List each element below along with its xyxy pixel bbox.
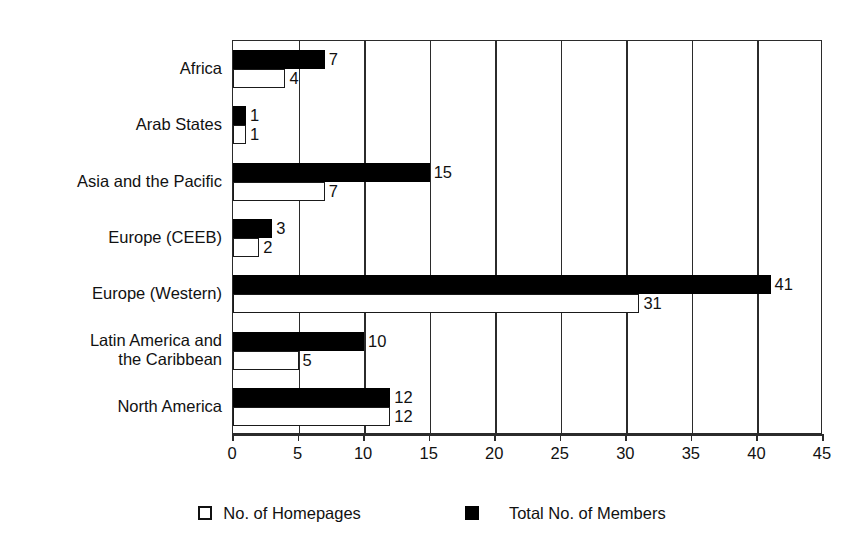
category-label: North America <box>117 396 222 415</box>
bar-value-label: 31 <box>639 294 661 313</box>
bar-value-label: 2 <box>259 238 272 257</box>
grouped-bar-chart: AfricaArab StatesAsia and the PacificEur… <box>0 0 864 560</box>
x-axis-tick <box>691 434 693 441</box>
x-axis-tick-label: 0 <box>227 444 236 463</box>
gridline <box>299 41 301 433</box>
bar-total-members <box>233 332 364 351</box>
gridline <box>364 41 366 433</box>
x-axis: 051015202530354045 <box>232 434 822 468</box>
x-axis-tick-label: 30 <box>616 444 634 463</box>
bar-homepages <box>233 238 259 257</box>
bar-value-label: 4 <box>285 69 298 88</box>
bar-total-members <box>233 219 272 238</box>
bar-value-label: 12 <box>390 388 412 407</box>
x-axis-tick-label: 5 <box>293 444 302 463</box>
bar-value-label: 3 <box>272 219 285 238</box>
bar-value-label: 7 <box>325 50 338 69</box>
bar-value-label: 41 <box>771 275 793 294</box>
gridline <box>430 41 432 433</box>
bar-total-members <box>233 388 390 407</box>
category-label: Asia and the Pacific <box>77 171 222 190</box>
x-axis-tick <box>625 434 627 441</box>
bar-value-label: 12 <box>390 407 412 426</box>
legend-label-homepages: No. of Homepages <box>223 504 361 523</box>
bar-total-members <box>233 275 771 294</box>
bar-homepages <box>233 407 390 426</box>
bar-value-label: 15 <box>430 163 452 182</box>
legend-item-homepages: No. of Homepages <box>198 504 361 523</box>
legend-label-members: Total No. of Members <box>509 504 666 523</box>
plot-area: 74111573241311051212 <box>232 40 822 434</box>
bar-homepages <box>233 294 639 313</box>
x-axis-tick <box>363 434 365 441</box>
x-axis-tick-label: 15 <box>419 444 437 463</box>
category-label: Europe (Western) <box>92 284 222 303</box>
gridline <box>626 41 628 433</box>
bar-homepages <box>233 182 325 201</box>
bar-value-label: 5 <box>299 351 312 370</box>
bar-homepages <box>233 125 246 144</box>
x-axis-tick <box>232 434 234 441</box>
x-axis-tick <box>822 434 824 441</box>
x-axis-tick-label: 40 <box>747 444 765 463</box>
x-axis-line <box>232 434 822 436</box>
filled-square-swatch-icon <box>465 506 479 520</box>
category-label: Europe (CEEB) <box>108 228 222 247</box>
category-label: Africa <box>180 59 222 78</box>
x-axis-tick <box>560 434 562 441</box>
bar-value-label: 1 <box>246 106 259 125</box>
bar-total-members <box>233 106 246 125</box>
bar-homepages <box>233 69 285 88</box>
bar-value-label: 1 <box>246 125 259 144</box>
x-axis-tick-label: 10 <box>354 444 372 463</box>
chart-legend: No. of Homepages Total No. of Members <box>0 495 864 531</box>
x-axis-tick-label: 35 <box>682 444 700 463</box>
category-label: Arab States <box>136 115 222 134</box>
gridline <box>692 41 694 433</box>
category-label: Latin America and the Caribbean <box>90 331 222 369</box>
gridline <box>561 41 563 433</box>
category-axis-labels: AfricaArab StatesAsia and the PacificEur… <box>0 40 228 434</box>
x-axis-tick-label: 45 <box>813 444 831 463</box>
bar-homepages <box>233 351 299 370</box>
gridline <box>757 41 759 433</box>
gridline <box>495 41 497 433</box>
x-axis-tick <box>494 434 496 441</box>
x-axis-tick <box>756 434 758 441</box>
bar-total-members <box>233 50 325 69</box>
bar-value-label: 10 <box>364 332 386 351</box>
legend-item-members: Total No. of Members <box>465 504 666 523</box>
x-axis-tick-label: 20 <box>485 444 503 463</box>
open-square-swatch-icon <box>198 506 212 520</box>
bar-total-members <box>233 163 430 182</box>
x-axis-tick <box>429 434 431 441</box>
x-axis-tick-label: 25 <box>551 444 569 463</box>
bar-value-label: 7 <box>325 182 338 201</box>
x-axis-tick <box>298 434 300 441</box>
